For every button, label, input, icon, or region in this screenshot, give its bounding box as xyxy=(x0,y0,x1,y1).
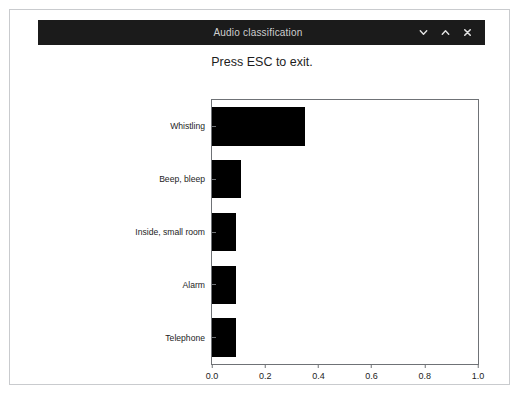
y-tick-mark xyxy=(212,232,216,233)
y-tick-mark xyxy=(212,337,216,338)
x-tick-mark xyxy=(477,364,478,368)
x-tick-mark xyxy=(318,364,319,368)
bar-rect xyxy=(212,213,236,252)
x-tick-label: 0.4 xyxy=(312,364,325,381)
bar-2 xyxy=(212,160,241,199)
y-tick-mark xyxy=(212,284,216,285)
matplotlib-figure: Press ESC to exit. WhistlingBeep, bleepI… xyxy=(39,45,485,383)
y-tick-label: Telephone xyxy=(165,333,212,343)
chart-axes: WhistlingBeep, bleepInside, small roomAl… xyxy=(211,99,479,365)
bar-5 xyxy=(212,318,236,357)
chevron-down-icon[interactable] xyxy=(418,27,429,38)
bar-rect xyxy=(212,266,236,305)
window-title: Audio classification xyxy=(38,27,418,38)
bar-1 xyxy=(212,107,305,146)
x-tick-label: 0.0 xyxy=(206,364,219,381)
x-tick-mark xyxy=(371,364,372,368)
x-tick-mark xyxy=(265,364,266,368)
y-tick-label: Beep, bleep xyxy=(159,174,212,184)
x-tick-label: 0.6 xyxy=(365,364,378,381)
bar-series xyxy=(212,100,478,364)
window-title-bar[interactable]: Audio classification xyxy=(38,20,485,45)
x-tick-label: 0.2 xyxy=(259,364,272,381)
bar-rect xyxy=(212,107,305,146)
bar-4 xyxy=(212,266,236,305)
x-tick-mark xyxy=(211,364,212,368)
x-tick-label: 1.0 xyxy=(472,364,485,381)
bar-rect xyxy=(212,160,241,199)
y-tick-label: Whistling xyxy=(170,121,212,131)
application-window: Audio classification xyxy=(38,20,485,383)
y-tick-mark xyxy=(212,126,216,127)
chevron-up-icon[interactable] xyxy=(440,27,451,38)
y-tick-label: Inside, small room xyxy=(135,227,212,237)
close-icon[interactable] xyxy=(462,27,473,38)
x-tick-mark xyxy=(424,364,425,368)
y-tick-label: Alarm xyxy=(183,280,212,290)
x-tick-label: 0.8 xyxy=(419,364,432,381)
chart-title: Press ESC to exit. xyxy=(39,55,485,69)
window-controls xyxy=(418,27,485,38)
y-tick-mark xyxy=(212,179,216,180)
bar-3 xyxy=(212,213,236,252)
bar-rect xyxy=(212,318,236,357)
screenshot-root: Audio classification xyxy=(0,0,520,403)
